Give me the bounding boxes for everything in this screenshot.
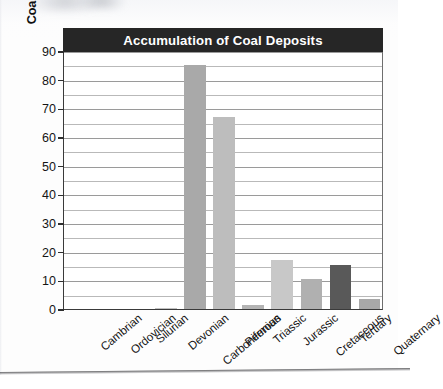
y-axis-tick <box>58 80 64 82</box>
gridline-minor <box>64 95 382 96</box>
y-axis-tick-label: 40 <box>42 188 56 202</box>
y-axis-tick-label: 90 <box>42 45 56 59</box>
y-axis-tick <box>58 137 64 139</box>
gridline-major <box>64 52 382 53</box>
y-axis-tick-label: 80 <box>42 74 56 88</box>
y-axis-tick <box>58 195 64 197</box>
chart-title-banner: Accumulation of Coal Deposits <box>63 28 383 52</box>
bar <box>330 265 352 309</box>
x-axis-tick-label: Quaternary <box>391 311 443 358</box>
y-axis-tick <box>58 223 64 225</box>
y-axis-tick-label: 30 <box>42 217 56 231</box>
gridline-major <box>64 109 382 110</box>
bar <box>184 65 206 309</box>
y-axis-tick <box>58 252 64 254</box>
bar <box>301 279 323 309</box>
y-axis-tick-label: 50 <box>42 160 56 174</box>
bar <box>242 305 264 309</box>
chart-title: Accumulation of Coal Deposits <box>123 33 322 48</box>
gridline-major <box>64 81 382 82</box>
bar <box>271 260 293 309</box>
y-axis-tick <box>58 109 64 111</box>
y-axis-tick-label: 0 <box>49 303 56 317</box>
y-axis-tick-label: 20 <box>42 246 56 260</box>
gridline-minor <box>64 66 382 67</box>
y-axis-tick-label: 70 <box>42 102 56 116</box>
bar <box>155 308 177 309</box>
y-axis-tick <box>58 166 64 168</box>
bar <box>359 299 381 309</box>
x-axis-tick-label: Jurassic <box>300 311 340 348</box>
y-axis-tick-label: 60 <box>42 131 56 145</box>
y-axis-tick <box>58 281 64 283</box>
y-axis-title: Coal deposits (tons per year) <box>24 0 40 68</box>
y-axis-tick-label: 10 <box>42 274 56 288</box>
x-axis-tick-label: Devonian <box>185 311 230 352</box>
bar <box>213 117 235 309</box>
plot-area: 0102030405060708090 <box>63 52 383 310</box>
y-axis-tick <box>58 51 64 53</box>
